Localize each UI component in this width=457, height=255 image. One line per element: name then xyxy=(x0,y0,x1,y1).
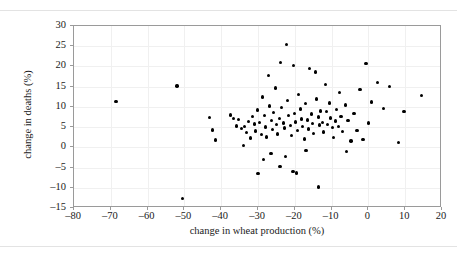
data-point xyxy=(308,67,311,70)
data-point xyxy=(361,138,364,141)
data-point xyxy=(318,123,321,126)
data-point xyxy=(358,88,361,91)
data-point xyxy=(388,85,391,88)
data-point xyxy=(299,107,302,110)
data-point xyxy=(271,128,274,131)
y-axis-tick-label: 0 xyxy=(26,140,66,152)
y-axis-tick xyxy=(70,25,73,26)
data-point xyxy=(382,107,385,110)
data-point xyxy=(332,136,335,139)
data-point xyxy=(242,144,245,147)
data-point xyxy=(307,127,310,130)
y-axis-tick-label: 25 xyxy=(26,39,66,51)
y-axis-tick-label: 10 xyxy=(26,100,66,112)
data-point xyxy=(304,102,307,105)
data-point xyxy=(272,111,275,114)
page-rule-top xyxy=(0,10,457,11)
data-point xyxy=(274,86,277,89)
x-axis-tick-label: –20 xyxy=(274,210,314,222)
data-point xyxy=(287,114,290,117)
gridline-horizontal xyxy=(74,87,440,88)
y-axis-tick-label: 5 xyxy=(26,120,66,132)
y-axis-tick xyxy=(70,167,73,168)
gridline-horizontal xyxy=(74,46,440,47)
gridline-horizontal xyxy=(74,127,440,128)
data-point xyxy=(249,136,252,139)
data-point xyxy=(269,152,272,155)
y-axis-tick-label: 30 xyxy=(26,19,66,31)
data-point xyxy=(339,115,342,118)
data-point xyxy=(114,100,117,103)
y-axis-tick xyxy=(70,187,73,188)
x-axis-tick-label: –40 xyxy=(200,210,240,222)
caption-remnant-text xyxy=(0,0,457,2)
data-point xyxy=(319,109,322,112)
data-point xyxy=(232,117,235,120)
data-point xyxy=(258,121,261,124)
data-point xyxy=(211,128,214,131)
y-axis-tick xyxy=(70,86,73,87)
data-point xyxy=(282,121,285,124)
gridline-horizontal xyxy=(74,168,440,169)
data-point xyxy=(297,93,300,96)
gridline-vertical xyxy=(258,26,259,206)
data-point xyxy=(295,171,298,174)
gridline-vertical xyxy=(295,26,296,206)
data-point xyxy=(311,122,314,125)
data-point xyxy=(338,91,341,94)
data-point xyxy=(276,132,279,135)
y-axis-tick-label: 15 xyxy=(26,80,66,92)
data-point xyxy=(303,137,306,140)
data-point xyxy=(275,123,278,126)
plot-area xyxy=(74,26,440,206)
data-point xyxy=(402,110,405,113)
x-axis-tick-label: –60 xyxy=(127,210,167,222)
gridline-vertical xyxy=(221,26,222,206)
data-point xyxy=(315,97,318,100)
data-point xyxy=(280,106,283,109)
data-point xyxy=(294,120,297,123)
data-point xyxy=(367,121,370,124)
y-axis-tick-label: –15 xyxy=(26,201,66,213)
gridline-vertical xyxy=(184,26,185,206)
plot-frame xyxy=(73,25,441,207)
y-axis-tick xyxy=(70,65,73,66)
x-axis-tick-label: –10 xyxy=(311,210,351,222)
data-point xyxy=(237,118,240,121)
data-point xyxy=(256,108,259,111)
data-point xyxy=(265,135,268,138)
data-point xyxy=(420,94,423,97)
y-axis-label: change in deaths (%) xyxy=(21,30,34,200)
data-point xyxy=(300,117,303,120)
data-point xyxy=(264,125,267,128)
data-point xyxy=(322,130,325,133)
data-point xyxy=(175,84,178,87)
data-point xyxy=(181,197,184,200)
x-axis-tick-label: 0 xyxy=(347,210,387,222)
y-axis-tick xyxy=(70,146,73,147)
data-point xyxy=(334,119,337,122)
data-point xyxy=(329,116,332,119)
data-point xyxy=(247,120,250,123)
data-point xyxy=(262,158,265,161)
data-point xyxy=(263,114,266,117)
data-point xyxy=(341,130,344,133)
data-point xyxy=(214,138,217,141)
y-axis-tick xyxy=(70,126,73,127)
data-point xyxy=(270,119,273,122)
data-point xyxy=(349,139,352,142)
data-point xyxy=(296,129,299,132)
data-point xyxy=(279,61,282,64)
data-point xyxy=(278,117,281,120)
data-point xyxy=(284,155,287,158)
y-axis-tick-label: 20 xyxy=(26,59,66,71)
data-point xyxy=(370,100,373,103)
y-axis-tick xyxy=(70,45,73,46)
gridline-vertical xyxy=(405,26,406,206)
x-axis-tick-label: –50 xyxy=(163,210,203,222)
data-point xyxy=(312,132,315,135)
x-axis-label: change in wheat production (%) xyxy=(73,224,441,237)
data-point xyxy=(235,124,238,127)
data-point xyxy=(254,129,257,132)
data-point xyxy=(326,123,329,126)
